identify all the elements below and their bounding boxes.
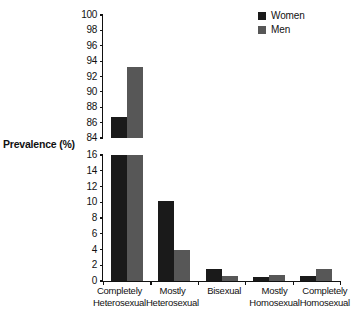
bar-men-1 xyxy=(174,250,190,281)
y-tick-label: 96 xyxy=(86,41,97,51)
y-tick-label: 6 xyxy=(92,229,97,239)
y-tick-label: 12 xyxy=(86,182,97,192)
bar-men-4 xyxy=(316,269,332,281)
bar-men-0 xyxy=(127,155,143,281)
y-tick-label: 14 xyxy=(86,166,97,176)
chart-panel-upper: 8486889092949698100 xyxy=(103,15,340,138)
x-axis-label-line: Mostly xyxy=(146,285,199,297)
x-axis-label-0: CompletelyHeterosexual xyxy=(93,285,146,308)
y-tick-label: 98 xyxy=(86,25,97,35)
bars-lower xyxy=(103,155,340,281)
y-tick-label: 4 xyxy=(92,245,97,255)
x-axis-label-line: Heterosexual xyxy=(146,297,199,309)
bar-chart: Women Men Prevalence (%) 848688909294969… xyxy=(0,0,360,314)
bar-women-2 xyxy=(206,269,222,281)
x-axis-label-line: Heterosexual xyxy=(93,297,146,309)
bar-women-0 xyxy=(111,117,127,138)
chart-panel-lower: 0246810121416 xyxy=(103,155,340,281)
x-axis-label-3: MostlyHomosexual xyxy=(249,285,299,308)
x-axis-label-line: Completely xyxy=(93,285,146,297)
y-tick-label: 90 xyxy=(86,87,97,97)
y-tick-label: 92 xyxy=(86,72,97,82)
y-tick-label: 100 xyxy=(81,10,97,20)
x-axis-label-2: Bisexual xyxy=(199,285,249,308)
y-tick-label: 88 xyxy=(86,102,97,112)
x-axis-label-line: Completely xyxy=(300,285,350,297)
x-axis-label-1: MostlyHeterosexual xyxy=(146,285,199,308)
x-axis-label-line: Homosexual xyxy=(249,297,299,309)
y-tick-label: 84 xyxy=(86,133,97,143)
y-tick-label: 8 xyxy=(92,213,97,223)
x-axis-label-line: Homosexual xyxy=(300,297,350,309)
y-tick-label: 10 xyxy=(86,197,97,207)
bar-men-0 xyxy=(127,67,143,138)
y-axis-title: Prevalence (%) xyxy=(3,138,75,150)
x-axis-label-4: CompletelyHomosexual xyxy=(300,285,350,308)
y-tick-label: 94 xyxy=(86,56,97,66)
x-axis-label-line: Mostly xyxy=(249,285,299,297)
y-tick-label: 2 xyxy=(92,260,97,270)
bar-women-1 xyxy=(158,201,174,281)
bars-upper xyxy=(103,15,340,138)
x-axis-label-line: Bisexual xyxy=(199,285,249,297)
bar-women-0 xyxy=(111,155,127,281)
y-tick-label: 86 xyxy=(86,118,97,128)
y-tick-label: 16 xyxy=(86,150,97,160)
x-axis-labels: CompletelyHeterosexualMostlyHeterosexual… xyxy=(93,285,350,308)
